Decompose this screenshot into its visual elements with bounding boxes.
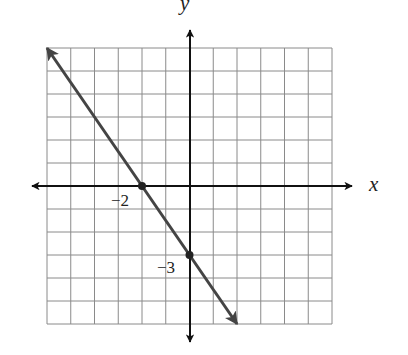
x-intercept-label: −2: [111, 191, 129, 210]
y-intercept-point: [186, 251, 194, 259]
x-axis-label: x: [368, 172, 379, 196]
y-axis-label: y: [178, 0, 190, 15]
coordinate-plane: y x −2 −3: [0, 0, 408, 355]
x-intercept-point: [138, 182, 146, 190]
y-intercept-label: −3: [157, 258, 175, 277]
